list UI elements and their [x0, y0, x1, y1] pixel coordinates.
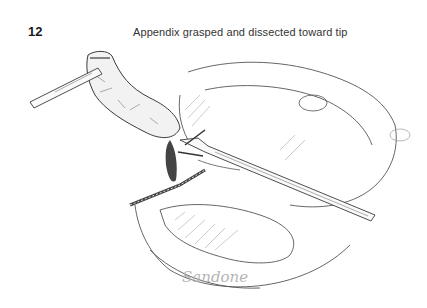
surgical-illustration [0, 0, 427, 308]
staple-line [130, 170, 205, 205]
shading-hatch [175, 95, 305, 250]
mesoappendix-shadow [166, 140, 177, 182]
figure-number: 12 [28, 24, 42, 39]
dissector-instrument [178, 130, 375, 221]
appendix-drawing [87, 51, 180, 137]
figure-caption: Appendix grasped and dissected toward ti… [133, 26, 347, 38]
artist-signature: Sandone [182, 268, 248, 286]
epiploic-appendage [299, 95, 327, 111]
